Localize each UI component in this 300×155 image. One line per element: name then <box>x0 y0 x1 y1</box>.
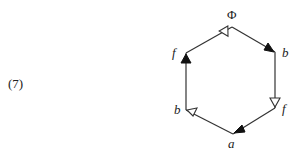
vertex-label-top: Φ <box>227 7 237 22</box>
hexagon-diagram: Φ b f a b f <box>0 0 300 155</box>
vertex-label-right-top: b <box>282 45 289 60</box>
filled-arrow-icon <box>264 43 274 52</box>
vertex-label-right-bottom: f <box>282 101 288 116</box>
vertex-label-left-top: f <box>172 45 178 60</box>
hexagon-edges <box>186 27 275 134</box>
vertex-label-bottom: a <box>228 136 235 151</box>
filled-arrow-icon <box>234 125 245 133</box>
hollow-arrow-icon <box>270 98 280 107</box>
filled-arrow-icon <box>181 54 191 63</box>
vertex-label-left-bottom: b <box>174 102 181 117</box>
